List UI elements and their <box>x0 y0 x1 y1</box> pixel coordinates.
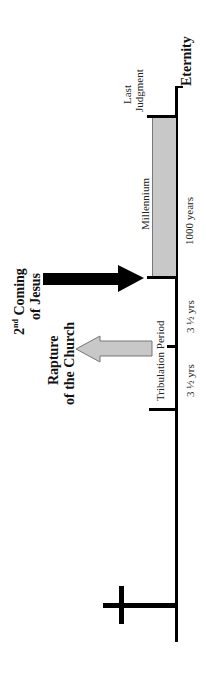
rapture-label-line1: Rapture <box>47 335 61 385</box>
tribulation-label: Tribulation Period <box>155 320 166 401</box>
tribulation-first-half-label: 3 ½ yrs <box>185 364 196 397</box>
rapture-label-line2: of the Church <box>63 322 77 405</box>
cross-vertical-bar <box>119 586 124 624</box>
tribulation-mid-tick <box>167 345 177 348</box>
tribulation-second-half-label: 3 ½ yrs <box>185 300 196 333</box>
cross-horizontal-bar <box>103 603 178 608</box>
rapture-arrow-icon <box>0 0 206 679</box>
tribulation-start-tick <box>149 408 177 411</box>
